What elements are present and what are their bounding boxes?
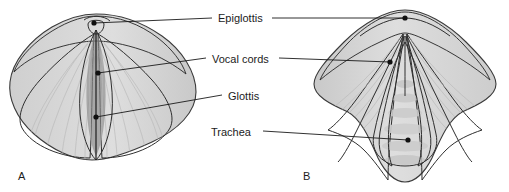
leader-dot-epiglottis-panel-b xyxy=(402,15,407,20)
label-epiglottis: Epiglottis xyxy=(218,12,263,24)
leader-dot-trachea-panel-b xyxy=(405,137,410,142)
panel-a-illustration xyxy=(10,14,196,162)
leader-dot-vocal-cords-panel-a xyxy=(95,70,100,75)
leader-dot-vocal-cords-panel-b xyxy=(387,59,392,64)
annotation-labels: Epiglottis Vocal cords Glottis Trachea xyxy=(211,12,269,138)
label-vocal-cords: Vocal cords xyxy=(212,53,269,65)
leader-dot-epiglottis-panel-a xyxy=(91,20,96,25)
panel-b-illustration xyxy=(314,10,496,182)
label-trachea: Trachea xyxy=(211,126,252,138)
panel-letter-a: A xyxy=(18,170,26,182)
larynx-diagram-canvas: Epiglottis Vocal cords Glottis Trachea A… xyxy=(0,0,509,192)
panel-letters: A B xyxy=(18,170,310,182)
larynx-figure: Epiglottis Vocal cords Glottis Trachea A… xyxy=(0,0,509,192)
panel-letter-b: B xyxy=(303,170,310,182)
label-glottis: Glottis xyxy=(228,90,260,102)
leader-dot-glottis-panel-a xyxy=(93,114,98,119)
